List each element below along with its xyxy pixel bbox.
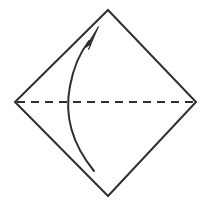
- origami-fold-diagram: [0, 0, 211, 205]
- fold-diagram-container: [0, 0, 211, 205]
